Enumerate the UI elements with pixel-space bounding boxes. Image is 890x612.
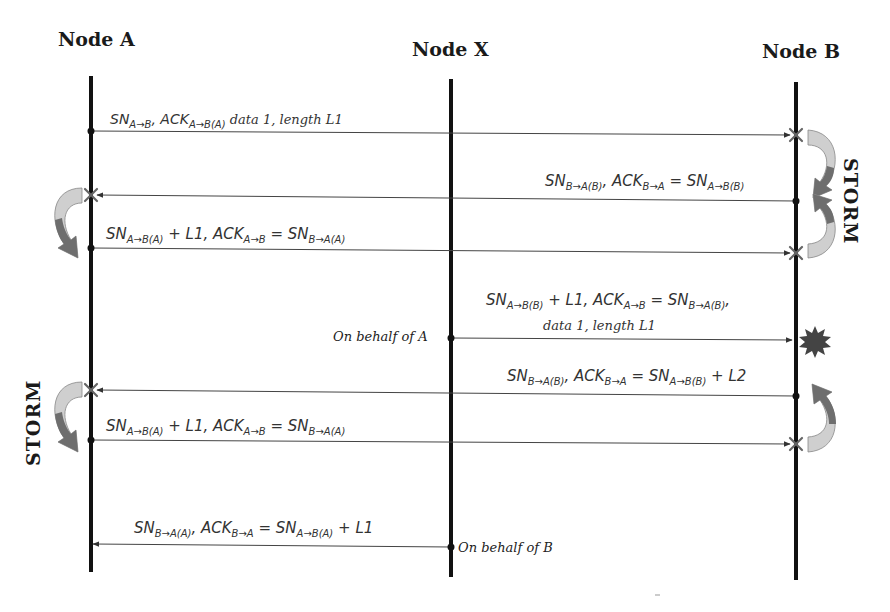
label-text: + L1, ACK [544,291,624,309]
label-text: SN [106,225,127,243]
label-text: , ACK [603,172,643,190]
storm-curved-arrow-icon [808,194,835,258]
storm-label-left: STORM [22,380,44,466]
storm-curved-arrow-icon [55,382,82,452]
starburst-icon [799,326,831,358]
message-5-label: SNB→A(B), ACKB→A = SNA→B(B) + L2 [507,368,746,390]
label-text: = SN [627,367,670,385]
label-text: + L1, ACK [163,417,243,435]
label-text: + L1 [333,519,373,537]
label-sub: A→B [129,119,151,130]
label-sub: B→A(A) [309,234,346,245]
label-text: , ACK [565,367,605,385]
label-sub: A→B(B) [507,300,544,311]
label-text: , ACK [191,519,231,537]
message-2-arrow [97,195,800,205]
label-text: = SN [266,417,309,435]
label-text: SN [507,367,528,385]
label-sub: B→A [605,376,627,387]
drop-cross-icon [85,189,97,201]
storm-curved-arrow-icon [55,188,82,258]
label-text: + L1, ACK [163,225,243,243]
label-text: data 1, length L1 [226,112,343,127]
label-sub: B→A(B) [689,300,726,311]
label-text: = SN [646,291,689,309]
message-6-label: SNA→B(A) + L1, ACKA→B = SNB→A(A) [106,418,345,440]
label-text: SN [134,519,155,537]
message-4-label: SNA→B(B) + L1, ACKA→B = SNB→A(B), [486,292,730,314]
label-text: = SN [266,225,309,243]
label-sub: A→B [624,300,646,311]
label-sub: B→A(B) [566,181,603,192]
label-text: SN [110,111,129,127]
storm-curved-arrow-icon [808,130,835,198]
message-5-arrow [97,390,800,400]
label-sub: A→B(A) [189,119,226,130]
storm-curved-arrow-icon [808,384,836,452]
label-text: = SN [665,172,708,190]
label-text: , [725,291,730,309]
label-text: SN [106,417,127,435]
label-sub: A→B(B) [708,181,745,192]
drop-cross-icon [85,384,97,396]
message-3-label: SNA→B(A) + L1, ACKA→B = SNB→A(A) [106,226,345,248]
message-2-label: SNB→A(B), ACKB→A = SNA→B(B) [545,173,744,195]
on-behalf-of-b-note: On behalf of B [458,540,553,555]
label-text: , ACK [151,111,188,127]
label-text: SN [486,291,507,309]
label-sub: A→B(A) [127,234,164,245]
label-text: + L2 [706,367,746,385]
message-1-label: SNA→B, ACKA→B(A) data 1, length L1 [110,111,343,133]
label-sub: B→A(A) [155,528,192,539]
drop-cross-icon [790,247,802,259]
drop-cross-icon [790,129,802,141]
label-text: = SN [254,519,297,537]
label-sub: A→B(A) [297,528,334,539]
label-sub: B→A [643,181,665,192]
label-sub: A→B(A) [127,426,164,437]
on-behalf-of-a-note: On behalf of A [333,329,428,344]
label-sub: A→B [244,426,266,437]
message-4-arrow [448,335,793,342]
message-7-label: SNB→A(A), ACKB→A = SNA→B(A) + L1 [134,520,373,542]
label-sub: B→A(B) [528,376,565,387]
label-sub: B→A [232,528,254,539]
drop-cross-icon [790,438,802,450]
label-sub: B→A(A) [309,426,346,437]
label-sub: A→B [244,234,266,245]
message-4-label-line2: data 1, length L1 [543,318,656,334]
storm-label-right: STORM [840,158,862,244]
message-7-arrow [93,544,455,551]
label-sub: A→B(B) [670,376,707,387]
label-text: SN [545,172,566,190]
